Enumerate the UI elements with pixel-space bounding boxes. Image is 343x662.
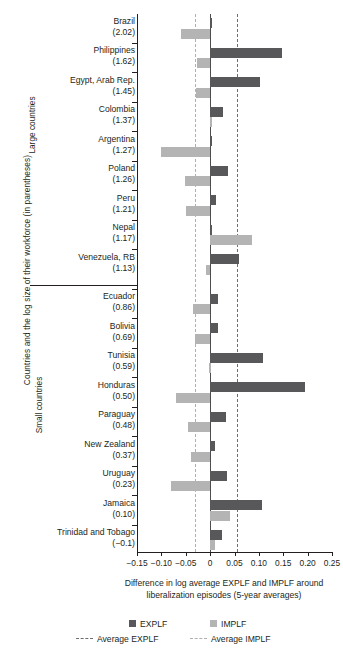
category-axis-line	[137, 14, 138, 552]
bar-explf	[210, 107, 223, 117]
category-tick	[132, 131, 137, 132]
bar-implf	[196, 88, 210, 98]
bar-explf	[210, 225, 212, 235]
country-name: Tunisia	[15, 350, 135, 361]
bar-implf	[210, 117, 212, 127]
workforce-log-size: (0.69)	[15, 332, 135, 343]
bar-explf	[210, 441, 214, 451]
workforce-log-size: (1.37)	[15, 115, 135, 126]
category-label: Argentina(1.27)	[15, 134, 135, 156]
bar-implf	[186, 206, 210, 216]
x-axis-tick	[161, 552, 162, 556]
category-tick	[132, 249, 137, 250]
bar-explf	[210, 530, 222, 540]
workforce-log-size: (1.45)	[15, 86, 135, 97]
country-name: Brazil	[15, 16, 135, 27]
legend-label-average-explf: Average EXPLF	[97, 634, 158, 644]
category-label: Honduras(0.50)	[15, 380, 135, 402]
average-implf-line-icon	[190, 638, 207, 639]
bar-explf	[210, 323, 218, 333]
category-label: Egypt, Arab Rep.(1.45)	[15, 75, 135, 97]
workforce-log-size: (2.02)	[15, 27, 135, 38]
workforce-log-size: (1.13)	[15, 263, 135, 274]
bar-implf	[193, 304, 210, 314]
category-label: Uruguay(0.23)	[15, 468, 135, 490]
category-label: Colombia(1.37)	[15, 104, 135, 126]
average-explf-line-icon	[76, 638, 93, 639]
average-explf-line	[237, 14, 238, 552]
x-axis-tick-label: 0.25	[315, 558, 343, 568]
country-name: Paraguay	[15, 409, 135, 420]
category-tick	[132, 220, 137, 221]
category-tick	[132, 72, 137, 73]
bar-explf	[210, 48, 282, 58]
bar-implf	[195, 334, 211, 344]
workforce-log-size: (0.37)	[15, 450, 135, 461]
category-label: Venezuela, RB(1.13)	[15, 252, 135, 274]
explf-swatch-icon	[129, 620, 136, 627]
category-tick	[132, 43, 137, 44]
country-name: Uruguay	[15, 468, 135, 479]
category-label: Philippines(1.62)	[15, 45, 135, 67]
country-name: Colombia	[15, 104, 135, 115]
legend-label-explf: EXPLF	[140, 619, 167, 629]
workforce-log-size: (0.59)	[15, 361, 135, 372]
x-axis-title: Difference in log average EXPLF and IMPL…	[108, 578, 340, 601]
x-axis-tick	[186, 552, 187, 556]
workforce-log-size: (0.23)	[15, 479, 135, 490]
country-name: Argentina	[15, 134, 135, 145]
x-axis-tick	[259, 552, 260, 556]
bar-explf	[210, 254, 239, 264]
bar-explf	[210, 500, 262, 510]
legend-label-implf: IMPLF	[221, 619, 246, 629]
bar-implf	[181, 29, 210, 39]
legend-item-implf: IMPLF	[210, 618, 246, 629]
country-name: Poland	[15, 163, 135, 174]
bar-implf	[210, 235, 251, 245]
workforce-log-size: (0.48)	[15, 420, 135, 431]
workforce-log-size: (0.86)	[15, 302, 135, 313]
category-tick	[132, 377, 137, 378]
category-tick	[132, 525, 137, 526]
country-name: Ecuador	[15, 291, 135, 302]
bar-explf	[210, 195, 216, 205]
workforce-log-size: (1.62)	[15, 56, 135, 67]
bar-implf	[188, 422, 210, 432]
plot-area	[137, 14, 332, 552]
category-label-column: Brazil(2.02)Philippines(1.62)Egypt, Arab…	[10, 14, 135, 552]
category-label: Trinidad and Tobago(−0.1)	[15, 527, 135, 549]
bar-implf	[210, 511, 230, 521]
category-tick	[132, 289, 137, 290]
bar-implf	[210, 540, 215, 550]
bar-implf	[176, 393, 210, 403]
country-name: Philippines	[15, 45, 135, 56]
category-tick	[132, 318, 137, 319]
category-label: Tunisia(0.59)	[15, 350, 135, 372]
category-label: Nepal(1.17)	[15, 222, 135, 244]
category-label: Bolivia(0.69)	[15, 321, 135, 343]
bar-implf	[191, 452, 211, 462]
category-tick	[132, 436, 137, 437]
x-axis-tick	[210, 552, 211, 556]
bar-explf	[210, 353, 263, 363]
bar-implf	[209, 363, 211, 373]
legend: EXPLF IMPLF Average EXPLF Average IMPLF	[0, 618, 343, 648]
legend-item-average-implf: Average IMPLF	[190, 633, 271, 644]
category-label: Peru(1.21)	[15, 193, 135, 215]
category-label: Paraguay(0.48)	[15, 409, 135, 431]
workforce-log-size: (−0.1)	[15, 538, 135, 549]
category-label: Ecuador(0.86)	[15, 291, 135, 313]
category-tick	[132, 102, 137, 103]
x-axis-title-line2: liberalization episodes (5-year averages…	[147, 590, 302, 600]
bar-implf	[197, 58, 210, 68]
country-name: Venezuela, RB	[15, 252, 135, 263]
x-axis-tick	[283, 552, 284, 556]
category-label: Jamaica(0.10)	[15, 498, 135, 520]
legend-item-explf: EXPLF	[129, 618, 167, 629]
country-name: Egypt, Arab Rep.	[15, 75, 135, 86]
workforce-log-size: (1.17)	[15, 233, 135, 244]
category-label: Brazil(2.02)	[15, 16, 135, 38]
x-axis-tick	[332, 552, 333, 556]
x-axis-tick	[137, 552, 138, 556]
country-name: New Zealand	[15, 439, 135, 450]
